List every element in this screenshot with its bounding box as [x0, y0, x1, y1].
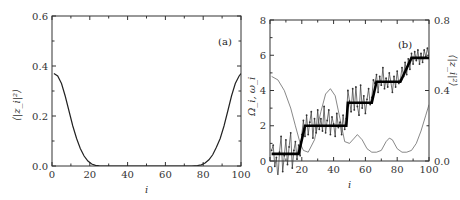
omega-point — [360, 84, 362, 86]
omega-point — [411, 53, 413, 55]
x-axis-label: i — [145, 184, 148, 195]
omega-point — [388, 72, 390, 74]
omega-point — [341, 134, 343, 136]
omega-point — [406, 74, 408, 76]
y-right-tick-label: 0.8 — [434, 15, 450, 26]
omega-point — [423, 49, 425, 51]
omega-point — [373, 79, 375, 81]
y-axis-label-right: ⟨|z_i|²⟩ — [447, 54, 459, 86]
omega-point — [393, 76, 395, 78]
omega-point — [417, 49, 419, 51]
omega-point — [377, 91, 379, 93]
omega-point — [376, 74, 378, 76]
omega-point — [334, 135, 336, 137]
omega-point — [287, 164, 289, 166]
y-right-tick-label: 0.4 — [434, 85, 450, 96]
omega-point — [385, 77, 387, 79]
omega-point — [304, 135, 306, 137]
omega-point — [326, 120, 328, 122]
x-tick-label: 20 — [83, 169, 96, 180]
omega-point — [382, 67, 384, 69]
y-tick-label: 8 — [260, 15, 266, 26]
y-tick-label: 0 — [260, 156, 266, 167]
omega-point — [352, 88, 354, 90]
omega-point — [357, 106, 359, 108]
omega-point — [271, 150, 273, 152]
omega-point — [342, 114, 344, 116]
y-tick-label: 6 — [260, 50, 266, 61]
omega-point — [407, 58, 409, 60]
x-tick-label: 100 — [231, 169, 250, 180]
omega-point — [280, 135, 282, 137]
omega-point — [312, 137, 314, 139]
omega-point — [409, 68, 411, 70]
omega-point — [365, 113, 367, 115]
omega-point — [330, 134, 332, 136]
omega-point — [422, 61, 424, 63]
y-tick-label: 0.6 — [32, 11, 48, 22]
omega-point — [392, 91, 394, 93]
x-tick-label: 0 — [267, 164, 273, 175]
omega-point — [387, 86, 389, 88]
x-tick-label: 80 — [391, 164, 404, 175]
omega-point — [336, 113, 338, 115]
omega-point — [427, 47, 429, 49]
omega-point — [323, 106, 325, 108]
x-tick-label: 40 — [327, 164, 340, 175]
omega-point — [344, 128, 346, 130]
omega-point — [355, 86, 357, 88]
omega-point — [272, 144, 274, 146]
y-axis-label-left: Ω_i, ω_i — [246, 77, 258, 117]
y-axis-label: ⟨|z_i|²⟩ — [11, 89, 23, 121]
omega-point — [396, 70, 398, 72]
panel-a: 0204060801000.00.20.40.6i(a)⟨|z_i|²⟩ — [11, 11, 251, 196]
omega-point — [328, 109, 330, 111]
y-tick-label: 0.2 — [32, 111, 48, 122]
omega-point — [317, 109, 319, 111]
omega-point — [401, 67, 403, 69]
omega-point — [366, 98, 368, 100]
omega-point — [320, 118, 322, 120]
omega-point — [310, 111, 312, 113]
y-right-tick-label: 0.0 — [434, 156, 450, 167]
x-axis-label: i — [348, 179, 351, 190]
panel-label: (a) — [218, 36, 232, 47]
omega-point — [290, 132, 292, 134]
plot-frame — [52, 16, 241, 166]
omega-point — [291, 167, 293, 169]
omega-point — [353, 109, 355, 111]
omega-point — [296, 158, 298, 160]
omega-point — [419, 63, 421, 65]
omega-point — [274, 165, 276, 167]
omega-point — [277, 178, 279, 180]
omega-point — [420, 53, 422, 55]
panel-label: (b) — [398, 39, 412, 50]
omega-point — [322, 130, 324, 132]
omega-point — [428, 54, 430, 56]
omega-point — [306, 114, 308, 116]
omega-point — [295, 141, 297, 143]
x-tick-label: 20 — [295, 164, 308, 175]
y-tick-label: 0.0 — [32, 161, 48, 172]
omega-point — [380, 84, 382, 86]
omega-point — [395, 86, 397, 88]
series-line-omega-noisy — [272, 48, 429, 178]
y-tick-label: 4 — [260, 85, 266, 96]
omega-point — [414, 51, 416, 53]
figure: 0204060801000.00.20.40.6i(a)⟨|z_i|²⟩ 020… — [0, 0, 460, 200]
y-tick-label: 2 — [260, 120, 266, 131]
series-line-z — [54, 74, 241, 167]
omega-point — [318, 128, 320, 130]
omega-point — [384, 88, 386, 90]
omega-point — [276, 157, 278, 159]
omega-point — [368, 88, 370, 90]
omega-point — [361, 107, 363, 109]
omega-point — [404, 61, 406, 63]
omega-point — [315, 132, 317, 134]
y-tick-label: 0.4 — [32, 61, 48, 72]
omega-point — [288, 146, 290, 148]
omega-point — [282, 171, 284, 173]
x-tick-label: 80 — [197, 169, 210, 180]
x-tick-label: 60 — [359, 164, 372, 175]
omega-point — [347, 90, 349, 92]
